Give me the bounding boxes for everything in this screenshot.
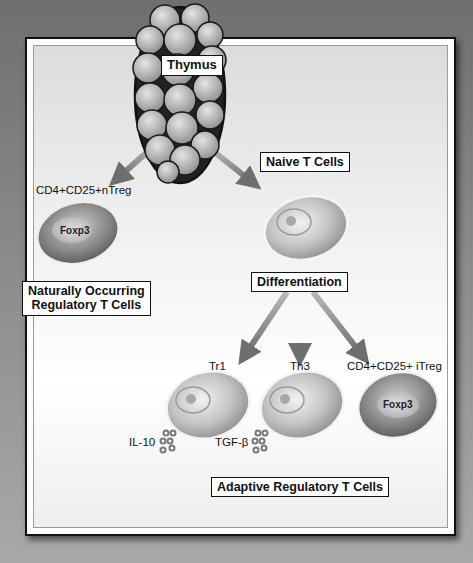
naive-t-cells-label: Naive T Cells	[260, 152, 350, 172]
thymus-icon	[133, 4, 226, 183]
naturally-occurring-line2: Regulatory T Cells	[28, 298, 145, 312]
tr1-label: Tr1	[209, 360, 226, 372]
differentiation-label: Differentiation	[251, 272, 348, 292]
naturally-occurring-label: Naturally Occurring Regulatory T Cells	[22, 281, 151, 316]
il10-cytokine-dots-icon	[161, 431, 176, 453]
thymus-label: Thymus	[161, 55, 223, 76]
ntreg-foxp3-label: Foxp3	[60, 225, 89, 236]
itreg-foxp3-label: Foxp3	[383, 399, 412, 410]
il10-label: IL-10	[129, 436, 155, 448]
th3-label: Th3	[290, 360, 310, 372]
itreg-label: CD4+CD25+ iTreg	[347, 360, 442, 372]
tgfb-label: TGF-β	[215, 436, 248, 448]
naive-t-cell-icon	[257, 187, 354, 269]
ntreg-label: CD4+CD25+nTreg	[36, 184, 131, 196]
naturally-occurring-line1: Naturally Occurring	[28, 284, 145, 298]
tgfb-cytokine-dots-icon	[253, 431, 268, 453]
adaptive-regulatory-label: Adaptive Regulatory T Cells	[211, 477, 389, 497]
